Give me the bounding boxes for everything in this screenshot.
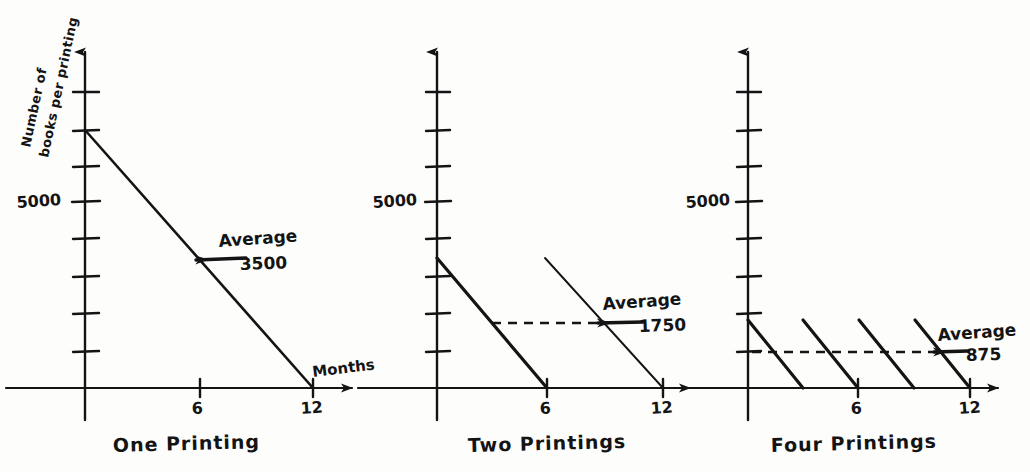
average-annotation-value: 3500 [239,252,287,274]
x-axis-name-months: Months [311,355,375,381]
panel-caption: Four Printings [771,430,938,456]
inventory-line-cycle-2 [803,320,858,388]
y-tick-label-5000: 5000 [685,190,731,212]
average-annotation-label: Average [937,320,1017,345]
panel-four-printings: 5000 6 12 Average 875 Four Printings [668,52,1017,456]
y-tick-label-5000: 5000 [372,190,418,212]
x-tick-label-12: 12 [300,397,324,418]
x-tick-label-12: 12 [958,397,982,418]
panel-one-printing: 5000 6 12 Months Average 3500 One Printi… [6,52,376,456]
x-tick-label-6: 6 [191,398,203,418]
panel-two-printings: 5000 6 12 Average 1750 Two Printings [358,52,690,456]
average-arrow [196,258,246,260]
y-axis-label: Number of books per printing [18,16,80,159]
x-tick-label-12: 12 [650,397,674,418]
average-arrow [934,351,968,352]
panel-caption: One Printing [113,430,261,456]
x-tick-label-6: 6 [539,398,551,418]
panel-caption: Two Printings [468,430,627,456]
average-annotation-label: Average [218,226,298,251]
inventory-line-cycle-3 [859,320,914,388]
y-tick-label-5000: 5000 [16,190,62,212]
average-arrow [598,322,643,323]
inventory-sawtooth-figure: 5000 6 12 Months Average 3500 One Printi… [0,0,1030,472]
average-annotation-value: 875 [965,344,1001,365]
average-annotation-value: 1750 [638,314,686,336]
average-annotation-label: Average [602,289,682,314]
inventory-line-cycle-1 [748,320,803,388]
x-tick-label-6: 6 [850,398,862,418]
